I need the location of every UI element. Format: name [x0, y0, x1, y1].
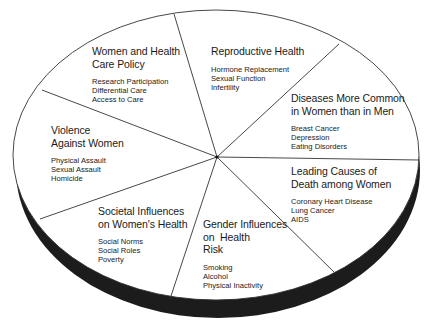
- women-health-pie-diagram: Women and Health Care Policy Research Pa…: [0, 0, 424, 336]
- segment-items: Smoking Alcohol Physical Inactivity: [203, 263, 287, 291]
- segment-item: Physical Assault: [51, 156, 124, 165]
- segment-items: Social Norms Social Roles Poverty: [98, 237, 187, 265]
- segment-title: Women and Health Care Policy: [92, 45, 180, 70]
- segment-item: Homicide: [51, 174, 124, 183]
- segment-item: Social Roles: [98, 246, 187, 255]
- segment-violence-against-women: Violence Against Women Physical Assault …: [51, 124, 124, 184]
- segment-item: Differential Care: [92, 86, 180, 95]
- segment-item: Sexual Function: [211, 74, 304, 83]
- segment-title: Societal Influences on Women's Health: [98, 205, 187, 230]
- segment-diseases-more-common: Diseases More Common in Women than in Me…: [291, 92, 405, 152]
- segment-item: Infertility: [211, 83, 304, 92]
- segment-item: Social Norms: [98, 237, 187, 246]
- segment-reproductive-health: Reproductive Health Hormone Replacement …: [211, 45, 304, 92]
- segment-title: Reproductive Health: [211, 45, 304, 58]
- segment-title: Violence Against Women: [51, 124, 124, 149]
- segment-items: Hormone Replacement Sexual Function Infe…: [211, 65, 304, 93]
- segment-items: Physical Assault Sexual Assault Homicide: [51, 156, 124, 184]
- segment-item: Depression: [291, 133, 405, 142]
- segment-item: Hormone Replacement: [211, 65, 304, 74]
- segment-societal-influences: Societal Influences on Women's Health So…: [98, 205, 187, 265]
- segment-title: Diseases More Common in Women than in Me…: [291, 92, 405, 117]
- segment-item: Breast Cancer: [291, 124, 405, 133]
- segment-item: Lung Cancer: [291, 206, 391, 215]
- segment-item: Access to Care: [92, 95, 180, 104]
- segment-items: Coronary Heart Disease Lung Cancer AIDS: [291, 197, 391, 225]
- segment-item: Eating Disorders: [291, 142, 405, 151]
- segment-item: AIDS: [291, 215, 391, 224]
- hub-dot: [215, 155, 218, 158]
- segment-item: Alcohol: [203, 272, 287, 281]
- segment-item: Smoking: [203, 263, 287, 272]
- segment-items: Breast Cancer Depression Eating Disorder…: [291, 124, 405, 152]
- segment-title: Gender Influences on Health Risk: [203, 218, 287, 256]
- segment-item: Poverty: [98, 255, 187, 264]
- segment-title: Leading Causes of Death among Women: [291, 165, 391, 190]
- segment-women-health-care-policy: Women and Health Care Policy Research Pa…: [92, 45, 180, 105]
- segment-items: Research Participation Differential Care…: [92, 77, 180, 105]
- segment-item: Physical Inactivity: [203, 281, 287, 290]
- segment-item: Research Participation: [92, 77, 180, 86]
- segment-leading-causes-of-death: Leading Causes of Death among Women Coro…: [291, 165, 391, 225]
- segment-item: Coronary Heart Disease: [291, 197, 391, 206]
- segment-item: Sexual Assault: [51, 165, 124, 174]
- segment-gender-influences: Gender Influences on Health Risk Smoking…: [203, 218, 287, 290]
